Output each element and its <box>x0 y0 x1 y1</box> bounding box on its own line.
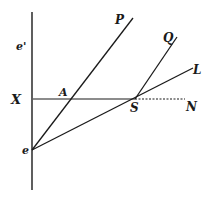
diagram-canvas: e' X A P Q L S N e <box>0 0 214 199</box>
label-X: X <box>10 92 22 107</box>
label-P: P <box>114 13 125 27</box>
label-S: S <box>130 101 139 115</box>
label-N: N <box>185 100 198 114</box>
label-L: L <box>192 63 201 77</box>
label-e: e <box>22 144 29 157</box>
line-eL <box>32 68 193 150</box>
label-e-prime: e' <box>16 40 26 53</box>
line-SQ <box>135 37 177 99</box>
line-eP <box>32 18 133 150</box>
label-Q: Q <box>163 31 174 45</box>
label-A: A <box>58 86 68 99</box>
